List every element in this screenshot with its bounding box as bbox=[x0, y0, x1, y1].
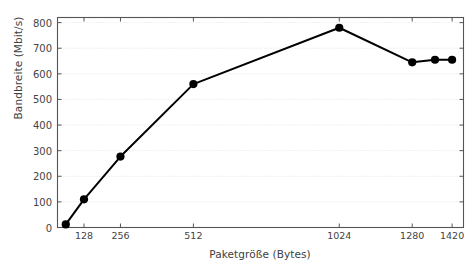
x-tick-label-layer: 128256512102412801420 bbox=[0, 0, 474, 271]
bandwidth-vs-packetsize-chart: Bandbreite (Mbit/s) Paketgröße (Bytes) 0… bbox=[0, 0, 474, 271]
x-tick-label: 512 bbox=[184, 230, 202, 241]
x-tick-label: 256 bbox=[111, 230, 129, 241]
x-tick-label: 1420 bbox=[440, 230, 464, 241]
x-tick-label: 128 bbox=[75, 230, 93, 241]
x-tick-label: 1024 bbox=[327, 230, 351, 241]
x-tick-label: 1280 bbox=[400, 230, 424, 241]
